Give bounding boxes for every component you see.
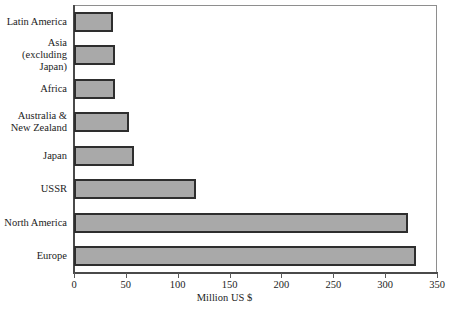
category-label: Australia &New Zealand xyxy=(0,106,70,140)
category-label: Asia(excluding Japan) xyxy=(0,39,70,73)
category-label-line: Australia & xyxy=(18,110,67,122)
bar xyxy=(74,146,134,166)
category-label: Europe xyxy=(0,240,70,274)
bar-row xyxy=(74,72,437,106)
x-tick-label: 150 xyxy=(222,279,238,290)
category-label-line: USSR xyxy=(41,183,67,195)
bar xyxy=(74,45,115,65)
category-label: Africa xyxy=(0,72,70,106)
bar-row xyxy=(74,206,437,240)
bar-row xyxy=(74,240,437,274)
bar xyxy=(74,112,129,132)
x-tick xyxy=(126,273,127,278)
category-label-line: Asia xyxy=(48,37,67,49)
x-tick-label: 100 xyxy=(170,279,186,290)
x-tick xyxy=(333,273,334,278)
category-label-line: (excluding Japan) xyxy=(0,49,67,73)
bar-row xyxy=(74,5,437,39)
category-label-line: North America xyxy=(4,217,67,229)
bar-row xyxy=(74,39,437,73)
bars-group xyxy=(74,5,437,273)
x-tick xyxy=(230,273,231,278)
x-tick xyxy=(178,273,179,278)
bar-chart: Latin AmericaAsia(excluding Japan)Africa… xyxy=(0,0,449,311)
x-tick-label: 350 xyxy=(429,279,445,290)
x-axis-title: Million US $ xyxy=(0,292,449,303)
bar-row xyxy=(74,106,437,140)
category-label-line: Latin America xyxy=(7,16,67,28)
x-tick xyxy=(74,273,75,278)
x-tick-label: 0 xyxy=(71,279,76,290)
category-label: Japan xyxy=(0,139,70,173)
bar-row xyxy=(74,173,437,207)
bar xyxy=(74,12,113,32)
category-label-line: Africa xyxy=(40,83,67,95)
bar xyxy=(74,79,115,99)
bar xyxy=(74,179,196,199)
category-label-line: Japan xyxy=(43,150,67,162)
bar xyxy=(74,246,416,266)
x-tick xyxy=(437,273,438,278)
x-tick xyxy=(281,273,282,278)
category-label: Latin America xyxy=(0,5,70,39)
category-label: USSR xyxy=(0,173,70,207)
bar-row xyxy=(74,139,437,173)
x-tick xyxy=(385,273,386,278)
x-tick-label: 200 xyxy=(274,279,290,290)
x-tick-label: 300 xyxy=(377,279,393,290)
bar xyxy=(74,213,408,233)
category-label-line: Europe xyxy=(37,250,67,262)
category-label: North America xyxy=(0,206,70,240)
category-axis-labels: Latin AmericaAsia(excluding Japan)Africa… xyxy=(0,5,70,273)
x-tick-label: 250 xyxy=(325,279,341,290)
x-tick-label: 50 xyxy=(121,279,132,290)
category-label-line: New Zealand xyxy=(11,122,67,134)
